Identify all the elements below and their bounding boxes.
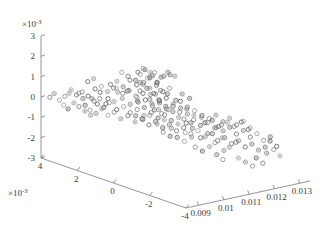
scatter-point <box>275 144 279 148</box>
scatter-point <box>106 113 110 117</box>
scatter-point <box>180 92 184 96</box>
scatter-point-core <box>192 128 193 129</box>
scatter-point <box>152 108 156 112</box>
scatter-point-core <box>258 149 259 150</box>
x-tick-mark <box>222 196 224 200</box>
scatter-point <box>115 107 119 111</box>
scatter-point-core <box>177 137 178 138</box>
scatter-point <box>121 85 125 89</box>
scatter-point <box>164 96 168 100</box>
scatter-point <box>196 129 200 133</box>
scatter-plot-canvas[interactable]: 3210-1-2-3 420-2-4 0.0090.010.0110.0120.… <box>0 0 323 240</box>
scatter-point-core <box>135 115 136 116</box>
scatter-point <box>147 123 151 127</box>
scatter-point-core <box>167 72 168 73</box>
z-tick-label: 2 <box>31 51 36 61</box>
scatter-point <box>214 113 218 117</box>
scatter-point <box>48 95 52 99</box>
scatter-point-core <box>169 136 170 137</box>
scatter-point <box>112 99 116 103</box>
scatter-point-core <box>264 146 265 147</box>
scatter-point <box>203 121 207 125</box>
scatter-point <box>138 89 142 93</box>
scatter-point-core <box>178 117 179 118</box>
scatter-point <box>178 110 182 114</box>
scatter-point-core <box>158 109 159 110</box>
scatter-point <box>251 164 255 168</box>
figure-3d-scatter-plot: 3210-1-2-3 420-2-4 0.0090.010.0110.0120.… <box>0 0 323 240</box>
scatter-point <box>255 132 259 136</box>
scatter-point-core <box>171 120 172 121</box>
y-tick-label: -4 <box>181 211 189 221</box>
scatter-point <box>98 90 102 94</box>
scatter-point <box>171 110 175 114</box>
scatter-point <box>185 112 189 116</box>
scatter-point <box>62 103 66 107</box>
scatter-point-core <box>193 114 194 115</box>
scatter-point <box>120 70 124 74</box>
scatter-point <box>57 98 61 102</box>
x-tick-label: 0.012 <box>266 192 286 202</box>
scatter-point <box>236 156 240 160</box>
scatter-point <box>178 99 182 103</box>
scatter-point <box>234 132 238 136</box>
y-tick-label: 2 <box>74 174 79 184</box>
scatter-point <box>108 82 112 86</box>
scatter-point-core <box>212 133 213 134</box>
scatter-point <box>162 118 166 122</box>
scatter-point <box>119 117 123 121</box>
scatter-point <box>174 129 178 133</box>
scatter-point <box>93 87 97 91</box>
scatter-point <box>182 117 186 121</box>
scatter-point <box>193 145 197 149</box>
scatter-point-core <box>181 93 182 94</box>
scatter-point <box>241 128 245 132</box>
scatter-point <box>268 135 272 139</box>
z-tick-label: -3 <box>28 153 36 163</box>
scatter-point-core <box>113 101 114 102</box>
scatter-point <box>243 145 247 149</box>
scatter-point <box>88 113 92 117</box>
scatter-point-core <box>256 157 257 158</box>
scatter-point-core <box>149 99 150 100</box>
scatter-point <box>121 105 125 109</box>
scatter-point-core <box>146 87 147 88</box>
scatter-point <box>182 126 186 130</box>
scatter-point-core <box>238 157 239 158</box>
scatter-point <box>116 90 120 94</box>
scatter-point-core <box>54 93 55 94</box>
scatter-point <box>128 102 132 106</box>
scatter-point <box>52 92 56 96</box>
scatter-point <box>220 136 224 140</box>
x-tick-mark <box>248 190 250 194</box>
scatter-point <box>188 96 192 100</box>
scatter-point <box>183 131 187 135</box>
scatter-point <box>145 86 149 90</box>
x-axis-ticks: 0.0090.010.0110.0120.013 <box>191 179 313 218</box>
scatter-point-core <box>169 74 170 75</box>
scatter-point-core <box>222 121 223 122</box>
scatter-point <box>165 92 169 96</box>
z-tick-mark <box>41 75 45 76</box>
y-tick-mark <box>114 180 117 183</box>
z-tick-mark <box>41 96 45 97</box>
scatter-point-core <box>157 117 158 118</box>
scatter-point <box>193 109 197 113</box>
scatter-point-core <box>222 130 223 131</box>
scatter-point-core <box>200 125 201 126</box>
scatter-point <box>83 103 87 107</box>
scatter-point-core <box>137 101 138 102</box>
scatter-point-core <box>68 93 69 94</box>
scatter-point-core <box>216 154 217 155</box>
scatter-point <box>126 114 130 118</box>
z-tick-mark <box>41 35 45 36</box>
scatter-point-core <box>204 122 205 123</box>
scatter-point-core <box>167 93 168 94</box>
scatter-point <box>112 110 116 114</box>
scatter-point <box>88 108 92 112</box>
scatter-point-core <box>205 136 206 137</box>
scatter-point-core <box>209 146 210 147</box>
z-tick-label: -2 <box>28 133 36 143</box>
scatter-point <box>168 134 172 138</box>
scatter-point-core <box>150 94 151 95</box>
